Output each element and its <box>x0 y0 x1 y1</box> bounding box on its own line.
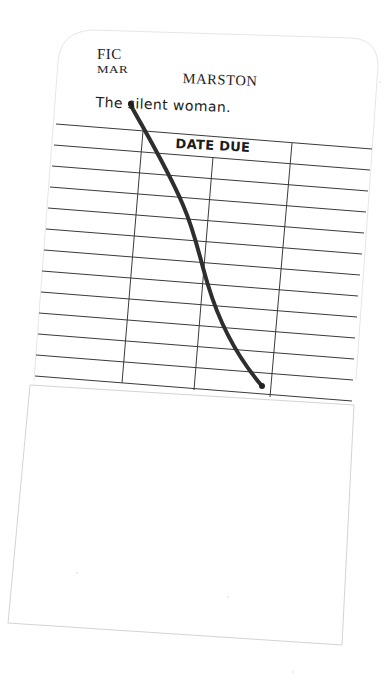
author-name: MARSTON <box>182 70 257 90</box>
call-number-line2: MAR <box>97 63 128 77</box>
column-dividers <box>122 131 292 397</box>
call-number-line1: FIC <box>97 46 122 63</box>
card-pocket <box>8 385 354 645</box>
